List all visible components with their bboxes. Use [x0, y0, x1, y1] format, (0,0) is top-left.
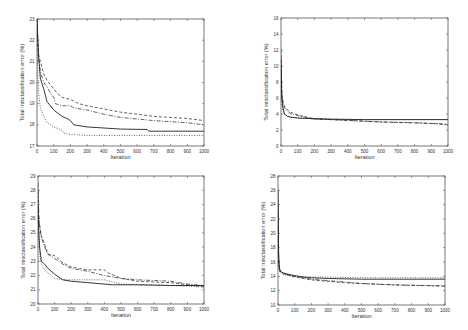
- x-axis-label: Iteration: [110, 154, 130, 160]
- y-tick-label: 20: [29, 80, 35, 85]
- x-tick-label: 900: [184, 307, 192, 312]
- x-tick-label: 500: [358, 308, 366, 313]
- y-tick-label: 14: [273, 32, 279, 37]
- plot-frame: [37, 19, 204, 146]
- x-tick-label: 100: [50, 149, 58, 154]
- x-tick-label: 0: [36, 149, 39, 154]
- x-axis-label: Iteration: [351, 313, 371, 319]
- x-tick-label: 700: [394, 149, 402, 154]
- y-tick-label: 12: [270, 288, 276, 293]
- y-tick-label: 14: [270, 274, 276, 279]
- y-tick-label: 26: [270, 188, 276, 193]
- y-tick-label: 4: [276, 112, 279, 117]
- x-tick-label: 700: [150, 307, 158, 312]
- plot-frame: [281, 18, 448, 146]
- x-tick-label: 900: [427, 149, 435, 154]
- x-tick-label: 100: [294, 149, 302, 154]
- chart-top-right: 0100200300400500600700800900100002468101…: [263, 16, 454, 160]
- x-tick-label: 200: [67, 307, 75, 312]
- y-tick-label: 10: [270, 303, 276, 308]
- x-axis-label: Iteration: [111, 312, 131, 318]
- y-tick-label: 20: [30, 302, 36, 307]
- y-tick-label: 24: [270, 202, 276, 207]
- y-tick-label: 21: [29, 59, 35, 64]
- y-tick-label: 22: [29, 38, 35, 43]
- x-tick-label: 900: [183, 149, 191, 154]
- y-tick-label: 18: [270, 245, 276, 250]
- x-tick-label: 700: [150, 149, 158, 154]
- y-tick-label: 12: [273, 48, 279, 53]
- x-tick-label: 600: [377, 149, 385, 154]
- y-tick-label: 22: [270, 217, 276, 222]
- x-tick-label: 300: [84, 307, 92, 312]
- x-tick-label: 100: [291, 308, 299, 313]
- x-tick-label: 800: [411, 149, 419, 154]
- x-tick-label: 500: [117, 149, 125, 154]
- y-tick-label: 16: [270, 260, 276, 265]
- x-tick-label: 0: [280, 149, 283, 154]
- y-tick-label: 28: [270, 174, 276, 179]
- y-tick-label: 8: [276, 80, 279, 85]
- x-tick-label: 800: [167, 307, 175, 312]
- x-tick-label: 400: [101, 307, 109, 312]
- x-tick-label: 1000: [199, 149, 210, 154]
- x-tick-label: 400: [100, 149, 108, 154]
- chart-bottom-left: 0100200300400500600700800900100020212223…: [20, 174, 210, 318]
- y-tick-label: 29: [30, 174, 36, 179]
- x-tick-label: 600: [374, 308, 382, 313]
- x-tick-label: 1000: [443, 149, 454, 154]
- x-tick-label: 700: [391, 308, 399, 313]
- y-tick-label: 2: [276, 128, 279, 133]
- y-tick-label: 6: [276, 96, 279, 101]
- x-tick-label: 900: [424, 308, 432, 313]
- x-tick-label: 500: [361, 149, 369, 154]
- y-tick-label: 16: [273, 16, 279, 21]
- y-tick-label: 23: [29, 17, 35, 22]
- y-axis-label: Total misclassification error (%): [260, 202, 266, 280]
- y-tick-label: 26: [30, 216, 36, 221]
- y-tick-label: 22: [30, 273, 36, 278]
- x-tick-label: 600: [133, 149, 141, 154]
- y-tick-label: 21: [30, 287, 36, 292]
- x-tick-label: 600: [134, 307, 142, 312]
- x-tick-label: 1000: [440, 308, 451, 313]
- figure: 0100200300400500600700800900100017181920…: [0, 0, 468, 330]
- y-tick-label: 18: [29, 122, 35, 127]
- x-tick-label: 200: [311, 149, 319, 154]
- x-tick-label: 300: [327, 149, 335, 154]
- y-tick-label: 24: [30, 245, 36, 250]
- x-tick-label: 0: [277, 308, 280, 313]
- y-tick-label: 27: [30, 202, 36, 207]
- y-tick-label: 17: [29, 144, 35, 149]
- x-tick-label: 100: [51, 307, 59, 312]
- y-tick-label: 0: [276, 144, 279, 149]
- x-tick-label: 800: [408, 308, 416, 313]
- y-tick-label: 28: [30, 188, 36, 193]
- y-tick-label: 25: [30, 230, 36, 235]
- x-tick-label: 0: [37, 307, 40, 312]
- y-axis-label: Total misclassification error (%): [20, 201, 26, 279]
- x-tick-label: 200: [308, 308, 316, 313]
- x-tick-label: 200: [67, 149, 75, 154]
- x-tick-label: 400: [344, 149, 352, 154]
- x-tick-label: 800: [167, 149, 175, 154]
- x-tick-label: 300: [324, 308, 332, 313]
- y-tick-label: 23: [30, 259, 36, 264]
- y-tick-label: 20: [270, 231, 276, 236]
- y-tick-label: 19: [29, 101, 35, 106]
- y-axis-label: Total misclassification error (%): [263, 43, 269, 121]
- y-axis-label: Total misclassification error (%): [19, 44, 25, 122]
- x-tick-label: 400: [341, 308, 349, 313]
- x-tick-label: 500: [117, 307, 125, 312]
- x-tick-label: 300: [83, 149, 91, 154]
- chart-top-left: 0100200300400500600700800900100017181920…: [19, 17, 210, 160]
- y-tick-label: 10: [273, 64, 279, 69]
- x-axis-label: Iteration: [354, 154, 374, 160]
- chart-bottom-right: 0100200300400500600700800900100010121416…: [260, 174, 451, 319]
- x-tick-label: 1000: [199, 307, 210, 312]
